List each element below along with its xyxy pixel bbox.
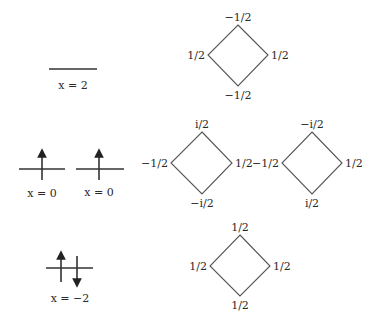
vertex-left-label: −1/2 — [141, 157, 168, 170]
level-label: x = −2 — [51, 292, 90, 305]
vertex-bottom-label: −1/2 — [225, 89, 252, 102]
level-x0-a: x = 0 — [19, 153, 65, 200]
diamond-1: −1/2 1/2 1/2 −1/2 — [187, 11, 288, 102]
level-xm2: x = −2 — [46, 255, 93, 305]
level-label: x = 0 — [27, 187, 56, 200]
vertex-left-label: 1/2 — [189, 260, 207, 273]
vertex-right-label: 1/2 — [345, 157, 363, 170]
vertex-bottom-label: i/2 — [305, 197, 319, 210]
vertex-top-label: −1/2 — [225, 11, 252, 24]
diamond-3: −i/2 −1/2 1/2 i/2 — [252, 118, 363, 210]
vertex-left-label: 1/2 — [187, 49, 205, 62]
vertex-top-label: 1/2 — [231, 221, 249, 234]
diamond-2: i/2 −1/2 1/2 −i/2 — [141, 118, 253, 210]
diamond-4: 1/2 1/2 1/2 1/2 — [189, 221, 290, 312]
diamond-shape — [171, 132, 232, 194]
vertex-right-label: 1/2 — [235, 157, 253, 170]
vertex-top-label: −i/2 — [300, 118, 323, 131]
vertex-bottom-label: −i/2 — [190, 197, 213, 210]
diamond-shape — [210, 235, 270, 296]
vertex-right-label: 1/2 — [271, 49, 289, 62]
level-label: x = 0 — [84, 186, 113, 199]
level-x0-b: x = 0 — [76, 153, 124, 199]
diamond-shape — [282, 132, 342, 194]
level-x2: x = 2 — [49, 69, 97, 92]
diagram-canvas: x = 2 x = 0 x = 0 x = −2 −1/2 1/2 1/2 −1… — [0, 0, 377, 323]
vertex-bottom-label: 1/2 — [231, 299, 249, 312]
vertex-top-label: i/2 — [195, 118, 209, 131]
vertex-left-label: −1/2 — [252, 157, 279, 170]
level-label: x = 2 — [58, 79, 87, 92]
diamond-shape — [208, 25, 268, 86]
vertex-right-label: 1/2 — [273, 260, 291, 273]
